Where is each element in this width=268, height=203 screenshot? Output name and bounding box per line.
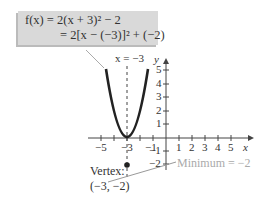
y-tick-1: 1 — [156, 117, 162, 129]
y-tick-5: 5 — [156, 63, 162, 75]
y-tick-3: 3 — [156, 90, 162, 102]
x-tick-3: 3 — [202, 141, 208, 153]
vertex-label: Vertex: — [90, 164, 125, 179]
x-tick-4: 4 — [215, 141, 221, 153]
plot-area — [0, 0, 268, 203]
x-tick-1: 1 — [176, 141, 182, 153]
x-tick-neg3: −3 — [121, 141, 133, 153]
y-tick-4: 4 — [156, 77, 162, 89]
x-axis-label: x — [243, 141, 248, 153]
x-tick-2: 2 — [189, 141, 195, 153]
vertex-coords: (−3, −2) — [90, 179, 130, 194]
x-tick-5: 5 — [228, 141, 234, 153]
axis-of-symmetry-label: x = −3 — [115, 52, 144, 64]
x-tick-neg5: −5 — [95, 141, 107, 153]
y-tick-2: 2 — [156, 104, 162, 116]
minimum-label: Minimum = −2 — [177, 156, 251, 171]
y-tick-neg2: −2 — [149, 157, 161, 169]
y-tick-neg1: −1 — [149, 144, 161, 156]
